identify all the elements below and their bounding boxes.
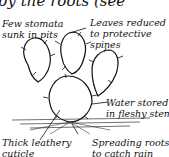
- label-roots: Spreading roots to catch rain: [92, 137, 169, 157]
- label-cuticle: Thick leathery cuticle: [2, 137, 71, 157]
- label-stomata: Few stomata sunk in pits: [2, 18, 63, 40]
- label-water: Water stored in fleshy stem: [106, 97, 169, 119]
- label-leaves: Leaves reduced to protective spines: [90, 17, 166, 50]
